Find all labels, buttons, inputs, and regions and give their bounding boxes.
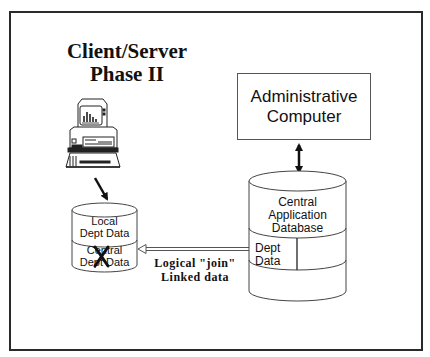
central-db-line-3: Database <box>249 222 346 235</box>
link-label-line-1: Logical "join" <box>150 256 240 270</box>
computer-to-local-db-arrow <box>95 178 107 199</box>
local-db-top-line-2: Dept Data <box>72 227 137 239</box>
diagram-graphics <box>0 0 430 357</box>
local-db-top-line-1: Local <box>72 215 137 227</box>
desktop-computer-icon <box>66 99 120 167</box>
link-label-line-2: Linked data <box>150 270 240 284</box>
local-db-bottom-line-1: Central <box>72 244 137 256</box>
central-db-dept-section-label: Dept Data <box>251 242 299 268</box>
logical-join-label: Logical "join" Linked data <box>150 256 240 284</box>
dept-section-line-2: Data <box>255 255 299 268</box>
local-db-bottom-line-2: Dept Data <box>72 256 137 268</box>
logical-join-arrow <box>138 245 250 254</box>
central-db-label: Central Application Database <box>249 196 346 235</box>
local-db-bottom-label: Central Dept Data <box>72 244 137 268</box>
local-db-top-label: Local Dept Data <box>72 215 137 239</box>
central-database-cylinder <box>249 171 346 301</box>
